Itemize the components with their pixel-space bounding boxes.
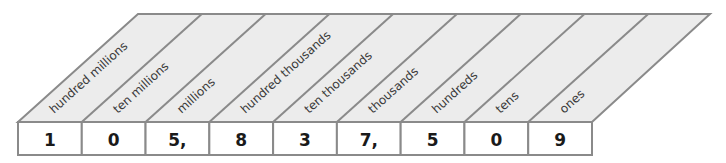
place-value-chart: hundred millionsten millionsmillionshund… [0, 0, 726, 163]
digit-value: 7, [360, 130, 378, 150]
digit-value: 9 [554, 130, 566, 150]
digit-value: 0 [490, 130, 502, 150]
digit-row: 105,837,509 [18, 122, 592, 155]
digit-value: 5 [427, 130, 439, 150]
place-header-band: hundred millionsten millionsmillionshund… [18, 14, 710, 122]
digit-value: 8 [235, 130, 247, 150]
digit-value: 5, [168, 130, 186, 150]
digit-value: 3 [299, 130, 311, 150]
digit-value: 0 [108, 130, 120, 150]
digit-value: 1 [44, 130, 56, 150]
